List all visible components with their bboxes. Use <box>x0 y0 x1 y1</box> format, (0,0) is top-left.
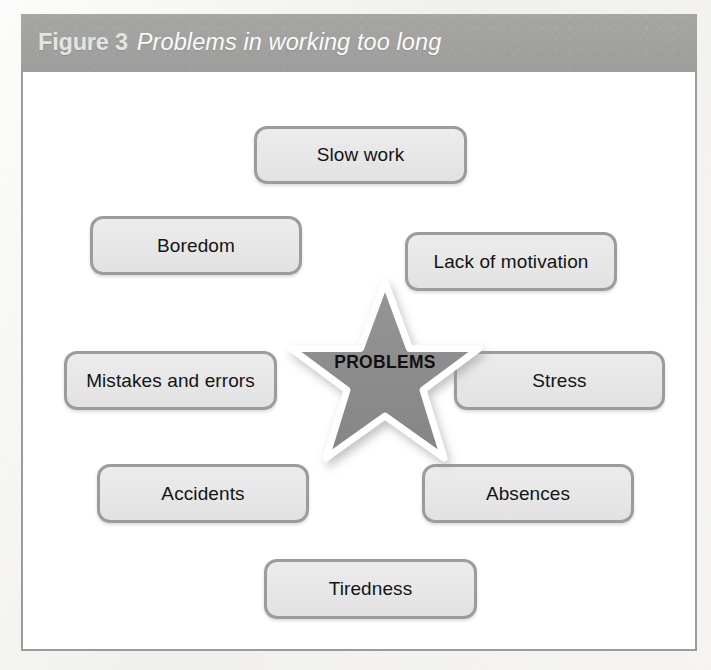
problem-box-label: Accidents <box>161 483 244 505</box>
problem-box-absences[interactable]: Absences <box>422 464 634 523</box>
problem-box-tiredness[interactable]: Tiredness <box>264 559 477 619</box>
figure-frame: Figure 3 Problems in working too long Sl… <box>21 14 697 651</box>
problem-box-label: Absences <box>486 483 570 505</box>
problem-box-label: Lack of motivation <box>434 251 589 273</box>
problem-box-label: Stress <box>532 370 586 392</box>
problem-box-label: Mistakes and errors <box>86 370 255 392</box>
problem-box-boredom[interactable]: Boredom <box>90 216 302 275</box>
figure-title: Problems in working too long <box>137 31 442 55</box>
problem-box-slow-work[interactable]: Slow work <box>254 126 467 184</box>
diagram-canvas: Slow workBoredomLack of motivationMistak… <box>23 72 695 649</box>
central-star-node: PROBLEMS <box>295 276 475 472</box>
diagram-panel: Slow workBoredomLack of motivationMistak… <box>21 72 697 651</box>
problem-box-label: Slow work <box>317 144 404 166</box>
problem-box-accidents[interactable]: Accidents <box>97 464 309 523</box>
scanned-page: Figure 3 Problems in working too long Sl… <box>0 0 711 670</box>
problem-box-label: Boredom <box>157 235 235 257</box>
problem-box-label: Tiredness <box>329 578 413 600</box>
figure-caption-bar: Figure 3 Problems in working too long <box>21 14 697 72</box>
star-shape <box>291 282 479 458</box>
problem-box-mistakes-and-errors[interactable]: Mistakes and errors <box>64 351 277 410</box>
figure-label: Figure 3 <box>38 31 128 55</box>
problem-box-stress[interactable]: Stress <box>454 351 665 410</box>
star-icon <box>295 276 475 472</box>
